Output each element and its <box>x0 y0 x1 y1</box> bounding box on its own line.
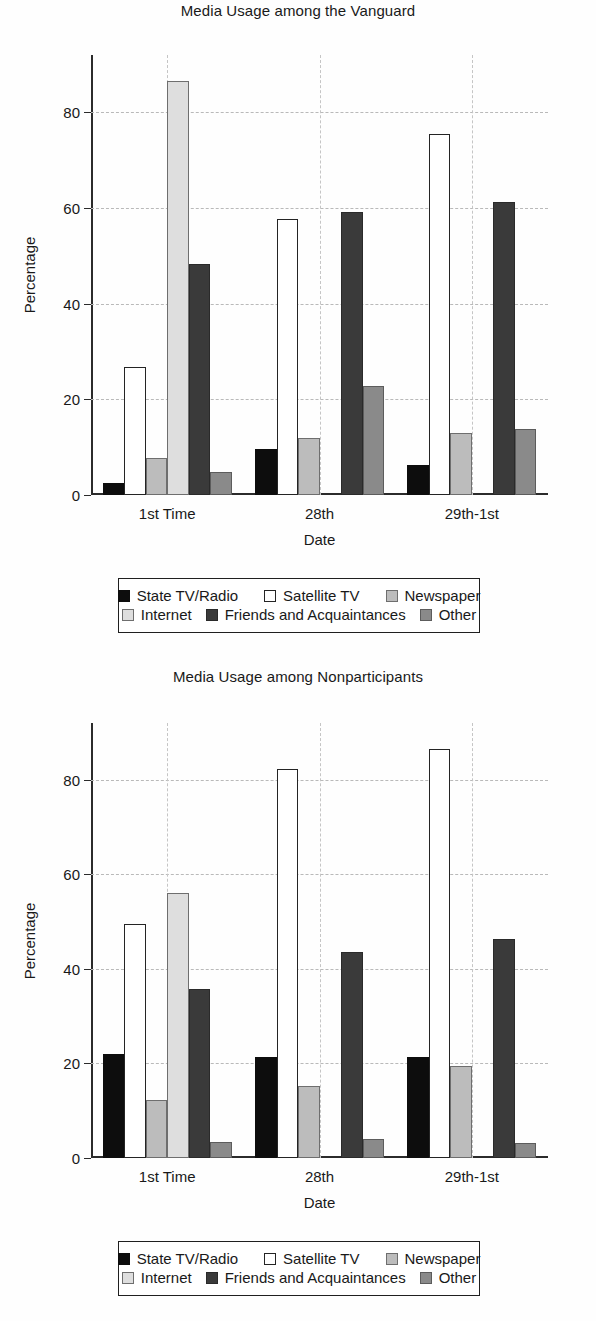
legend-label: Friends and Acquaintances <box>225 1268 406 1287</box>
bar <box>189 989 211 1158</box>
y-axis-tick <box>84 1158 91 1159</box>
bar <box>407 1057 429 1158</box>
chart-title: Media Usage among Nonparticipants <box>0 668 596 685</box>
legend-label: Internet <box>141 1268 192 1287</box>
legend-item-newspaper: Newspaper <box>386 586 481 605</box>
bar <box>124 367 146 495</box>
y-axis-tick <box>84 304 91 305</box>
chart-panel-vanguard: Media Usage among the Vanguard Percentag… <box>0 0 596 660</box>
legend-swatch-icon <box>118 1253 130 1265</box>
y-axis-tick <box>84 399 91 400</box>
bar <box>450 433 472 495</box>
legend-label: Other <box>439 605 477 624</box>
y-axis-label: Percentage <box>21 902 38 979</box>
legend-swatch-icon <box>122 609 134 621</box>
legend-row-1: State TV/Radio Satellite TV Newspaper <box>129 586 469 605</box>
bar <box>429 749 451 1158</box>
x-axis-tick-label: 29th-1st <box>445 1168 499 1185</box>
y-axis-tick-label: 60 <box>63 200 80 217</box>
legend-label: Other <box>439 1268 477 1287</box>
bar <box>277 769 299 1158</box>
y-axis-tick-label: 20 <box>63 391 80 408</box>
y-axis-label: Percentage <box>21 237 38 314</box>
y-axis-tick-label: 80 <box>63 771 80 788</box>
legend-item-newspaper: Newspaper <box>386 1249 481 1268</box>
x-axis-tick-label: 28th <box>305 505 334 522</box>
bar <box>298 1086 320 1158</box>
legend-item-friends-and-acquaintances: Friends and Acquaintances <box>206 1268 406 1287</box>
legend-swatch-icon <box>118 590 130 602</box>
x-axis-tick-label: 28th <box>305 1168 334 1185</box>
y-axis-tick-label: 0 <box>72 487 80 504</box>
bar <box>341 212 363 495</box>
y-axis-tick <box>84 112 91 113</box>
legend-item-state-tv-radio: State TV/Radio <box>118 586 238 605</box>
y-axis-tick <box>84 780 91 781</box>
bar <box>407 465 429 495</box>
bar <box>429 134 451 495</box>
bar <box>103 483 125 495</box>
bar <box>493 939 515 1158</box>
figure-page: Media Usage among the Vanguard Percentag… <box>0 0 596 1321</box>
bar <box>167 81 189 495</box>
legend-swatch-icon <box>264 1253 276 1265</box>
x-axis-label: Date <box>304 531 336 548</box>
bar <box>146 1100 168 1158</box>
legend-swatch-icon <box>206 609 218 621</box>
bar <box>493 202 515 495</box>
y-axis-tick <box>84 495 91 496</box>
legend-label: State TV/Radio <box>137 586 238 605</box>
vertical-gridline <box>320 723 321 1158</box>
bar <box>298 438 320 495</box>
chart-panel-nonparticipants: Media Usage among Nonparticipants Percen… <box>0 660 596 1321</box>
legend-item-satellite-tv: Satellite TV <box>264 1249 359 1268</box>
bar <box>277 219 299 495</box>
bar <box>210 1142 232 1158</box>
bar <box>363 386 385 495</box>
bar <box>146 458 168 495</box>
legend-label: State TV/Radio <box>137 1249 238 1268</box>
legend-item-other: Other <box>420 605 477 624</box>
bar <box>103 1054 125 1158</box>
y-axis-tick <box>84 969 91 970</box>
legend-row-2: Internet Friends and Acquaintances Other <box>129 605 469 624</box>
y-axis-tick-label: 40 <box>63 960 80 977</box>
bar <box>255 449 277 495</box>
y-axis <box>91 723 93 1158</box>
legend-row-1: State TV/Radio Satellite TV Newspaper <box>129 1249 469 1268</box>
bar <box>189 264 211 495</box>
legend-label: Satellite TV <box>283 1249 359 1268</box>
legend-label: Internet <box>141 605 192 624</box>
legend: State TV/Radio Satellite TV Newspaper In… <box>118 578 480 633</box>
x-axis-tick-label: 29th-1st <box>445 505 499 522</box>
bar <box>210 472 232 495</box>
legend-swatch-icon <box>264 590 276 602</box>
bar <box>450 1066 472 1158</box>
vertical-gridline <box>472 55 473 495</box>
legend-item-friends-and-acquaintances: Friends and Acquaintances <box>206 605 406 624</box>
y-axis <box>91 55 93 495</box>
vertical-gridline <box>472 723 473 1158</box>
legend-swatch-icon <box>420 609 432 621</box>
legend-item-state-tv-radio: State TV/Radio <box>118 1249 238 1268</box>
legend-label: Satellite TV <box>283 586 359 605</box>
bar <box>363 1139 385 1158</box>
plot-area: Percentage Date 0204060801st Time28th29t… <box>91 723 548 1158</box>
y-axis-tick-label: 20 <box>63 1055 80 1072</box>
legend-swatch-icon <box>206 1272 218 1284</box>
bar <box>515 429 537 495</box>
legend-swatch-icon <box>122 1272 134 1284</box>
x-axis-tick-label: 1st Time <box>139 1168 196 1185</box>
legend: State TV/Radio Satellite TV Newspaper In… <box>118 1241 480 1296</box>
legend-item-other: Other <box>420 1268 477 1287</box>
vertical-gridline <box>320 55 321 495</box>
bar <box>341 952 363 1158</box>
y-axis-tick-label: 80 <box>63 104 80 121</box>
bar <box>515 1143 537 1158</box>
y-axis-tick-label: 40 <box>63 295 80 312</box>
legend-item-internet: Internet <box>122 1268 192 1287</box>
plot-area: Percentage Date 0204060801st Time28th29t… <box>91 55 548 495</box>
legend-label: Newspaper <box>405 586 481 605</box>
bar <box>167 893 189 1158</box>
x-axis-label: Date <box>304 1194 336 1211</box>
